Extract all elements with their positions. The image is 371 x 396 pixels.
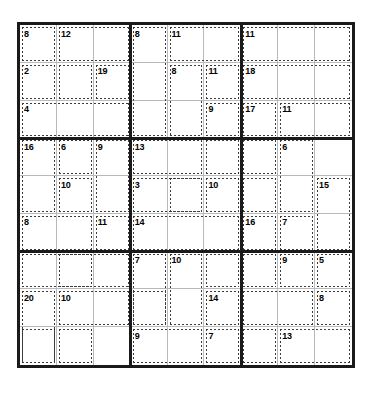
cage-sum-label: 20 [24, 294, 34, 303]
sudoku-cell-r7c2[interactable] [57, 252, 94, 290]
cage-sum-label: 15 [319, 181, 329, 190]
grid-inner: 8128111121981118491711166910811133101461… [20, 25, 352, 365]
sudoku-cell-r3c5[interactable] [168, 101, 205, 139]
cage-sum-label: 10 [208, 181, 218, 190]
cage-sum-label: 6 [282, 143, 287, 152]
sudoku-cell-r9c1[interactable] [20, 327, 57, 365]
cage-sum-label: 11 [98, 218, 107, 227]
cage-sum-label: 8 [319, 294, 324, 303]
sudoku-cell-r6c5[interactable] [168, 214, 205, 252]
cage-sum-label: 8 [24, 218, 29, 227]
sudoku-cell-r9c3[interactable] [94, 327, 131, 365]
cage-sum-label: 9 [135, 332, 140, 341]
cage-sum-label: 13 [135, 143, 145, 152]
sudoku-cell-r3c2[interactable] [57, 101, 94, 139]
box-divider-horizontal [20, 137, 352, 140]
cage-sum-label: 11 [208, 67, 217, 76]
sudoku-cell-r9c5[interactable] [168, 327, 205, 365]
sudoku-cell-r2c9[interactable] [315, 63, 352, 101]
sudoku-cell-r1c8[interactable] [278, 25, 315, 63]
cage-sum-label: 6 [61, 143, 66, 152]
sudoku-cell-r6c9[interactable] [315, 214, 352, 252]
sudoku-cell-r8c3[interactable] [94, 289, 131, 327]
sudoku-cell-r5c3[interactable] [94, 176, 131, 214]
sudoku-cell-r4c7[interactable] [241, 138, 278, 176]
sudoku-cell-r3c9[interactable] [315, 101, 352, 139]
cage-sum-label: 8 [135, 30, 140, 39]
cage-sum-label: 14 [135, 218, 145, 227]
sudoku-cell-r1c9[interactable] [315, 25, 352, 63]
sudoku-cell-r2c8[interactable] [278, 63, 315, 101]
box-divider-horizontal [20, 250, 352, 253]
sudoku-cell-r5c8[interactable] [278, 176, 315, 214]
cage-sum-label: 11 [282, 105, 291, 114]
cage-sum-label: 11 [172, 30, 181, 39]
sudoku-cell-r8c5[interactable] [168, 289, 205, 327]
sudoku-cell-r5c5[interactable] [168, 176, 205, 214]
sudoku-cell-r9c7[interactable] [241, 327, 278, 365]
cage-sum-label: 7 [135, 256, 140, 265]
cage-sum-label: 5 [319, 256, 324, 265]
cage-sum-label: 10 [61, 294, 71, 303]
killer-sudoku-page: 8128111121981118491711166910811133101461… [0, 0, 371, 396]
cage-sum-label: 4 [24, 105, 29, 114]
sudoku-cell-r1c3[interactable] [94, 25, 131, 63]
sudoku-cell-r2c2[interactable] [57, 63, 94, 101]
sudoku-cell-r8c8[interactable] [278, 289, 315, 327]
sudoku-cell-r6c2[interactable] [57, 214, 94, 252]
cage-sum-label: 14 [208, 294, 218, 303]
cage-sum-label: 9 [98, 143, 103, 152]
sudoku-cell-r1c6[interactable] [204, 25, 241, 63]
cage-sum-label: 17 [245, 105, 255, 114]
sudoku-cell-r7c6[interactable] [204, 252, 241, 290]
cage-sum-label: 8 [172, 67, 177, 76]
sudoku-grid[interactable]: 8128111121981118491711166910811133101461… [17, 22, 355, 368]
cage-sum-label: 16 [245, 218, 255, 227]
cage-sum-label: 8 [24, 30, 29, 39]
box-divider-vertical [240, 25, 243, 365]
cage-sum-label: 9 [208, 105, 213, 114]
sudoku-cell-r7c1[interactable] [20, 252, 57, 290]
cage-sum-label: 10 [172, 256, 182, 265]
cage-sum-label: 16 [24, 143, 34, 152]
sudoku-cell-r9c9[interactable] [315, 327, 352, 365]
sudoku-cell-r4c5[interactable] [168, 138, 205, 176]
sudoku-cell-r9c2[interactable] [57, 327, 94, 365]
cage-sum-label: 10 [61, 181, 71, 190]
sudoku-cell-r5c7[interactable] [241, 176, 278, 214]
cage-sum-label: 11 [245, 30, 254, 39]
sudoku-cell-r4c9[interactable] [315, 138, 352, 176]
sudoku-cell-r8c4[interactable] [131, 289, 168, 327]
sudoku-cell-r7c3[interactable] [94, 252, 131, 290]
cage-sum-label: 7 [282, 218, 287, 227]
sudoku-cell-r7c7[interactable] [241, 252, 278, 290]
sudoku-cell-r2c4[interactable] [131, 63, 168, 101]
cage-sum-label: 19 [98, 67, 108, 76]
sudoku-cell-r6c6[interactable] [204, 214, 241, 252]
sudoku-cell-r4c6[interactable] [204, 138, 241, 176]
box-divider-vertical [129, 25, 132, 365]
sudoku-cell-r3c4[interactable] [131, 101, 168, 139]
sudoku-cell-r5c1[interactable] [20, 176, 57, 214]
killer-sudoku-puzzle[interactable]: 8128111121981118491711166910811133101461… [17, 22, 355, 368]
cage-sum-label: 2 [24, 67, 29, 76]
cage-sum-label: 13 [282, 332, 292, 341]
sudoku-cell-r3c3[interactable] [94, 101, 131, 139]
cage-sum-label: 18 [245, 67, 255, 76]
cage-sum-label: 9 [282, 256, 287, 265]
cage-sum-label: 7 [208, 332, 213, 341]
cage-sum-label: 3 [135, 181, 140, 190]
cage-sum-label: 12 [61, 30, 71, 39]
sudoku-cell-r8c7[interactable] [241, 289, 278, 327]
